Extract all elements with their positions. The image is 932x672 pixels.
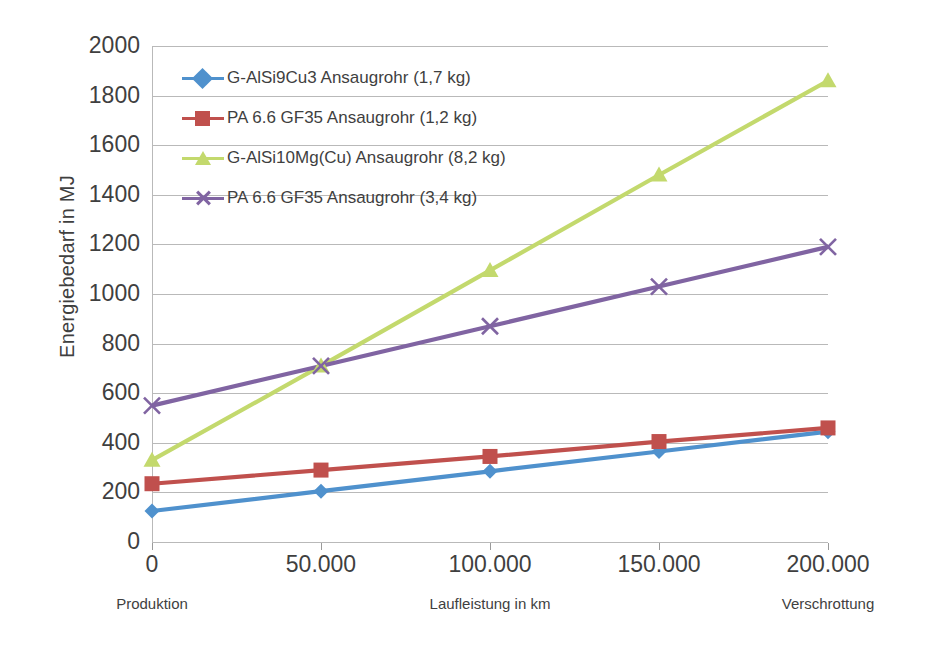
legend-item[interactable]: G-AlSi10Mg(Cu) Ansaugrohr (8,2 kg) [182, 138, 602, 178]
legend-item-label: PA 6.6 GF35 Ansaugrohr (3,4 kg) [227, 188, 477, 208]
y-axis-tick-label: 600 [54, 381, 140, 404]
energy-demand-line-chart: Energiebedarf in MJ 20001800160014001200… [0, 0, 932, 672]
x-axis-caption: Produktion [2, 596, 302, 611]
y-axis-tick-label: 400 [54, 431, 140, 454]
y-axis-tick-label: 1800 [54, 84, 140, 107]
y-axis-tick-label: 800 [54, 332, 140, 355]
y-axis-tick-label: 1000 [54, 282, 140, 305]
legend-diamond-icon [182, 69, 224, 87]
x-axis-tick-mark [490, 543, 491, 550]
series-data-point [821, 420, 836, 435]
series-data-point [145, 476, 160, 491]
series-data-point [145, 504, 160, 519]
x-axis-tick-label: 100.000 [410, 553, 570, 576]
series-data-point [483, 449, 498, 464]
y-axis-tick-label: 0 [54, 530, 140, 553]
legend-item-label: PA 6.6 GF35 Ansaugrohr (1,2 kg) [227, 108, 477, 128]
y-axis-tick-label: 1400 [54, 183, 140, 206]
y-axis-tick-label: 1600 [54, 133, 140, 156]
y-axis-tick-labels: 2000180016001400120010008006004002000 [40, 46, 140, 542]
series-data-point [483, 464, 498, 479]
x-axis-caption: Verschrottung [678, 596, 932, 611]
x-axis-tick-mark [828, 543, 829, 550]
series-data-point [820, 72, 837, 87]
x-axis-tick-label: 0 [72, 553, 232, 576]
y-axis-tick-label: 1200 [54, 232, 140, 255]
legend-cross-icon [182, 189, 224, 207]
series-data-point [652, 434, 667, 449]
legend-item[interactable]: PA 6.6 GF35 Ansaugrohr (1,2 kg) [182, 98, 602, 138]
x-axis-tick-label: 150.000 [579, 553, 739, 576]
series-data-point [314, 484, 329, 499]
x-axis-tick-mark [659, 543, 660, 550]
legend-square-icon [182, 109, 224, 127]
x-axis-tick-mark [152, 543, 153, 550]
x-axis-caption: Laufleistung in km [340, 596, 640, 611]
legend-triangle-icon [182, 149, 224, 167]
x-axis-tick-mark [321, 543, 322, 550]
legend-item-label: G-AlSi9Cu3 Ansaugrohr (1,7 kg) [227, 68, 471, 88]
legend-item-label: G-AlSi10Mg(Cu) Ansaugrohr (8,2 kg) [227, 148, 506, 168]
chart-legend: G-AlSi9Cu3 Ansaugrohr (1,7 kg)PA 6.6 GF3… [182, 58, 602, 218]
legend-item[interactable]: G-AlSi9Cu3 Ansaugrohr (1,7 kg) [182, 58, 602, 98]
x-axis-tick-label: 50.000 [241, 553, 401, 576]
y-axis-tick-label: 2000 [54, 34, 140, 57]
y-axis-tick-label: 200 [54, 480, 140, 503]
legend-item[interactable]: PA 6.6 GF35 Ansaugrohr (3,4 kg) [182, 178, 602, 218]
x-axis-tick-label: 200.000 [748, 553, 908, 576]
series-data-point [314, 463, 329, 478]
